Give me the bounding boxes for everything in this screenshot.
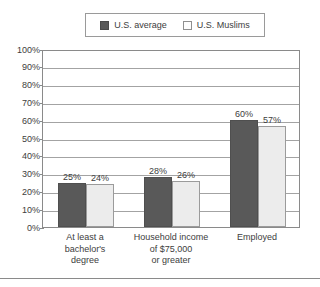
category-label-line: bachelor's xyxy=(42,244,128,256)
category-label-line: degree xyxy=(42,255,128,267)
legend-label-us-average: U.S. average xyxy=(114,20,167,30)
x-axis-category-labels: At least abachelor'sdegreeHousehold inco… xyxy=(42,232,300,276)
legend-entry-us-average: U.S. average xyxy=(100,20,167,30)
bar-group: 60%57% xyxy=(215,51,301,227)
category-label: Household incomeof $75,000or greater xyxy=(128,232,214,267)
bar-value-label: 57% xyxy=(255,115,289,125)
bar-group: 25%24% xyxy=(43,51,129,227)
bottom-divider xyxy=(0,278,320,279)
y-tick-label: 100% xyxy=(2,46,40,55)
y-tick-label: 20% xyxy=(2,188,40,197)
legend-light-swatch-icon xyxy=(183,21,192,30)
y-tick-label: 10% xyxy=(2,206,40,215)
category-label: Employed xyxy=(214,232,300,244)
y-axis: 0%10%20%30%40%50%60%70%80%90%100% xyxy=(0,50,40,228)
bar-value-label: 24% xyxy=(83,173,117,183)
category-label-line: or greater xyxy=(128,255,214,267)
bar-group: 28%26% xyxy=(129,51,215,227)
y-tick-label: 50% xyxy=(2,135,40,144)
legend-entry-us-muslims: U.S. Muslims xyxy=(183,20,250,30)
bar-us-muslims xyxy=(258,126,286,227)
y-tick-label: 70% xyxy=(2,99,40,108)
category-label-line: At least a xyxy=(42,232,128,244)
y-tick-label: 90% xyxy=(2,63,40,72)
y-tick-label: 60% xyxy=(2,117,40,126)
category-label: At least abachelor'sdegree xyxy=(42,232,128,267)
chart-legend: U.S. average U.S. Muslims xyxy=(85,13,265,37)
bar-us-average xyxy=(144,177,172,227)
y-tick-label: 40% xyxy=(2,152,40,161)
bar-us-average xyxy=(230,120,258,227)
bar-us-muslims xyxy=(172,181,200,227)
bar-us-average xyxy=(58,183,86,228)
legend-dark-swatch-icon xyxy=(100,21,109,30)
category-label-line: Household income xyxy=(128,232,214,244)
plot-area: 25%24%28%26%60%57% xyxy=(42,50,300,228)
bar-us-muslims xyxy=(86,184,114,227)
bar-value-label: 26% xyxy=(169,170,203,180)
y-tick-label: 30% xyxy=(2,170,40,179)
legend-label-us-muslims: U.S. Muslims xyxy=(197,20,250,30)
y-tick-label: 80% xyxy=(2,81,40,90)
category-label-line: of $75,000 xyxy=(128,244,214,256)
category-label-line: Employed xyxy=(214,232,300,244)
y-tick-label: 0% xyxy=(2,224,40,233)
